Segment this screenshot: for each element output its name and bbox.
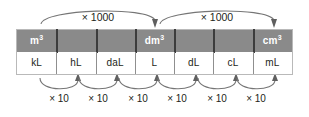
capacity-units-row: kL hL daL L dL cL mL xyxy=(17,52,292,74)
cell-capacity-daL: daL xyxy=(96,52,135,74)
cell-volume-blank-2 xyxy=(56,30,95,52)
exponent-3: 3 xyxy=(160,34,164,41)
conversion-chart-diagram: m3 dm3 cm3 kL hL daL L dL cL mL × 1000 ×… xyxy=(0,0,309,117)
cell-volume-cm3: cm3 xyxy=(253,30,292,52)
units-table: m3 dm3 cm3 kL hL daL L dL cL mL xyxy=(16,29,293,75)
bottom-arc-hL-to-daL xyxy=(79,73,120,89)
exponent-3: 3 xyxy=(39,34,43,41)
bottom-arc-daL-to-L xyxy=(119,73,160,89)
volume-units-row: m3 dm3 cm3 xyxy=(17,30,292,52)
cell-volume-blank-5 xyxy=(174,30,213,52)
cell-capacity-L: L xyxy=(135,52,174,74)
multiplier-label-10-6: × 10 xyxy=(246,94,266,104)
multiplier-label-1000-left: × 1000 xyxy=(82,12,114,23)
multiplier-label-1000-right: × 1000 xyxy=(201,12,233,23)
cell-volume-blank-6 xyxy=(213,30,252,52)
cell-volume-dm3: dm3 xyxy=(135,30,174,52)
volume-label-dm3: dm3 xyxy=(145,36,165,46)
multiplier-label-10-1: × 10 xyxy=(49,94,69,104)
cell-capacity-kL: kL xyxy=(17,52,56,74)
cell-capacity-dL: dL xyxy=(174,52,213,74)
multiplier-label-10-3: × 10 xyxy=(128,94,148,104)
cell-capacity-mL: mL xyxy=(253,52,292,74)
multiplier-label-10-4: × 10 xyxy=(167,94,187,104)
exponent-3: 3 xyxy=(278,34,282,41)
multiplier-label-10-5: × 10 xyxy=(207,94,227,104)
cell-volume-blank-3 xyxy=(96,30,135,52)
bottom-arc-L-to-dL xyxy=(158,73,199,89)
volume-label-cm3: cm3 xyxy=(263,36,282,46)
cell-volume-m3: m3 xyxy=(17,30,56,52)
bottom-arc-kL-to-hL xyxy=(40,73,81,89)
multiplier-label-10-2: × 10 xyxy=(88,94,108,104)
cell-capacity-cL: cL xyxy=(213,52,252,74)
volume-label-m3: m3 xyxy=(30,36,43,46)
cell-capacity-hL: hL xyxy=(56,52,95,74)
bottom-arc-cL-to-mL xyxy=(237,73,278,89)
bottom-arc-dL-to-cL xyxy=(198,73,239,89)
